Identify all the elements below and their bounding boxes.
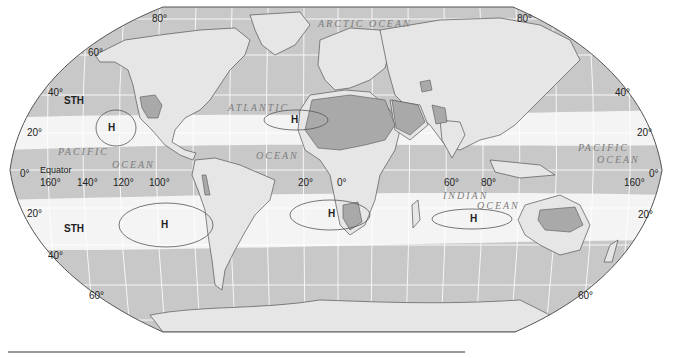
australian-desert: [538, 207, 583, 232]
ocean-label-pacific-west-ocean: OCEAN: [112, 159, 155, 170]
equator-label: Equator: [40, 165, 72, 175]
ocean-label-atlantic: ATLANTIC: [227, 102, 289, 113]
sth-label-south: STH: [64, 223, 84, 234]
ocean-label-pacific-west: PACIFIC: [57, 146, 109, 157]
lon-label-0: 0°: [337, 177, 347, 188]
lon-label-60e: 60°: [444, 177, 459, 188]
world-map: H H H H H STH STH ARCTIC OCEAN ATLANTIC …: [0, 0, 675, 358]
sth-label-north: STH: [64, 95, 84, 106]
lat-label-n60-left: 60°: [88, 47, 103, 58]
lat-label-s40-left: 40°: [48, 250, 63, 261]
ocean-label-pacific-east: PACIFIC: [577, 142, 629, 153]
lat-label-n20-left: 20°: [27, 127, 42, 138]
lon-label-100w: 100°: [149, 177, 170, 188]
lat-label-equator-left: 0°: [20, 168, 30, 179]
lat-label-n40-right: 40°: [615, 87, 630, 98]
high-label-south-atlantic: H: [328, 208, 335, 219]
iran-desert: [420, 80, 432, 92]
ocean-label-pacific-east-ocean: OCEAN: [597, 154, 640, 165]
high-label-south-pacific: H: [161, 219, 168, 230]
ocean-label-atlantic-ocean: OCEAN: [256, 150, 299, 161]
lat-label-n20-right: 20°: [637, 127, 652, 138]
lat-label-s20-left: 20°: [27, 208, 42, 219]
lon-label-160e: 160°: [624, 177, 645, 188]
lat-label-s60-left: 60°: [89, 290, 104, 301]
ocean-label-arctic: ARCTIC OCEAN: [317, 18, 412, 29]
lat-label-equator-right: 0°: [649, 168, 659, 179]
lon-label-160w: 160°: [40, 177, 61, 188]
lat-label-s20-right: 20°: [638, 209, 653, 220]
ocean-label-indian-ocean: OCEAN: [477, 200, 520, 211]
high-label-north-pacific: H: [108, 122, 115, 133]
lon-label-140w: 140°: [77, 177, 98, 188]
lon-label-120w: 120°: [113, 177, 134, 188]
high-label-indian-ocean: H: [470, 213, 477, 224]
lat-label-n80-left: 80°: [152, 13, 167, 24]
lat-label-n80-right: 80°: [517, 13, 532, 24]
lon-label-20w: 20°: [298, 177, 313, 188]
lat-label-s60-right: 60°: [578, 290, 593, 301]
lon-label-80e: 80°: [481, 177, 496, 188]
high-label-north-atlantic: H: [291, 114, 298, 125]
lat-label-n40-left: 40°: [48, 87, 63, 98]
